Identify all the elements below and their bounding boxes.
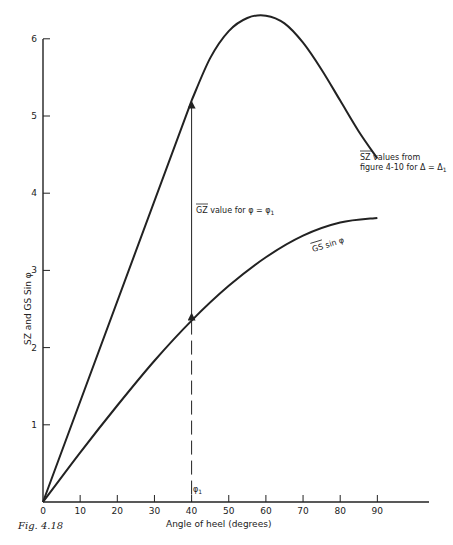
y-tick-label: 1 — [31, 420, 37, 430]
y-axis-title: SZ and GS Sin φ — [23, 272, 33, 345]
x-tick-label: 70 — [297, 506, 309, 516]
x-tick-label: 40 — [186, 506, 198, 516]
y-tick-label: 6 — [31, 34, 37, 44]
gs-sin-phi-curve — [43, 218, 377, 502]
x-axis-title: Angle of heel (degrees) — [166, 519, 271, 529]
gs-curve-label: GS sin φ — [311, 236, 345, 254]
stability-chart: 123456 0102030405060708090 SZ values fro… — [0, 0, 453, 545]
sz-curve — [43, 15, 377, 502]
x-tick-label: 60 — [260, 506, 272, 516]
sz-annotation-line1: SZ values from — [360, 153, 420, 162]
x-axis-ticks: 0102030405060708090 — [40, 495, 383, 516]
gz-annotation: GZ value for φ = φ1 — [196, 206, 275, 216]
x-tick-label: 30 — [149, 506, 161, 516]
figure-caption: Fig. 4.18 — [18, 520, 63, 531]
y-tick-label: 4 — [31, 188, 37, 198]
x-tick-label: 0 — [40, 506, 46, 516]
x-tick-label: 50 — [223, 506, 235, 516]
x-tick-label: 90 — [372, 506, 384, 516]
x-tick-label: 10 — [74, 506, 86, 516]
phi1-label: φ1 — [193, 485, 202, 495]
sz-annotation-line2: figure 4-10 for Δ = Δ1 — [360, 163, 447, 173]
x-tick-label: 80 — [334, 506, 346, 516]
x-tick-label: 20 — [112, 506, 124, 516]
y-tick-label: 5 — [31, 111, 37, 121]
y-axis-ticks: 123456 — [31, 34, 50, 430]
